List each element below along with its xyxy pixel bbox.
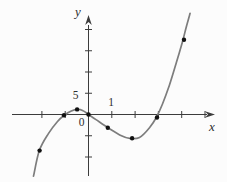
y-axis-arrow-icon xyxy=(85,15,92,25)
function-graph: y x 5 0 1 xyxy=(0,0,227,182)
curve-sample-point xyxy=(75,107,79,111)
curve-sample-point xyxy=(106,126,110,130)
curve-sample-point xyxy=(62,113,66,117)
curve xyxy=(34,13,191,176)
origin-label: 0 xyxy=(79,116,85,128)
cubic-curve xyxy=(34,13,191,176)
curve-sample-point xyxy=(37,148,41,152)
curve-sample-point xyxy=(155,115,159,119)
x-axis-label: x xyxy=(208,119,215,134)
curve-sample-point xyxy=(130,136,134,140)
function-graph-figure: y x 5 0 1 xyxy=(0,0,227,182)
x-tick-label-1: 1 xyxy=(108,96,114,108)
y-axis-label: y xyxy=(73,4,81,19)
curve-sample-point xyxy=(182,38,186,42)
curve-sample-point xyxy=(86,112,90,116)
y-tick-label-5: 5 xyxy=(73,89,79,101)
